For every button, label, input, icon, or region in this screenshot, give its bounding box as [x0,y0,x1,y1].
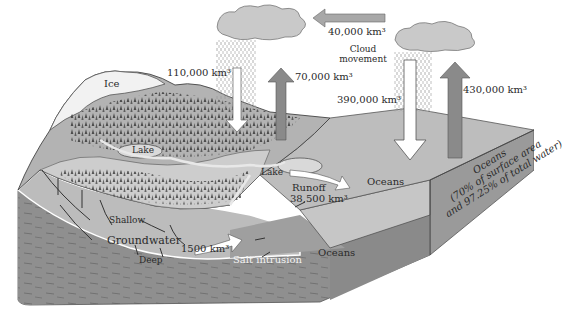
label-runoff-value: 38,500 km³ [290,194,348,204]
label-groundwater-discharge: 1500 km³ [181,244,229,254]
label-groundwater: Groundwater [107,235,181,246]
label-ocean-evaporation: 430,000 km³ [463,85,527,95]
label-lake-1: Lake [132,146,154,155]
label-land-precipitation: 110,000 km³ [167,68,231,78]
label-land-evaporation: 70,000 km³ [295,72,353,82]
cloud-movement-arrow [313,9,385,27]
label-ice: Ice [104,79,119,89]
label-shallow: Shallow [109,216,145,225]
label-runoff: Runoff [292,183,326,193]
label-salt-intrusion: Salt intrusion [233,255,302,265]
label-oceans-subsurface: Oceans [318,248,355,258]
label-oceans-surface: Oceans [367,177,404,187]
label-cloud-movement-1: Cloud [336,45,390,54]
label-ocean-precipitation: 390,000 km³ [337,95,401,105]
cloud-right [395,21,475,51]
label-deep: Deep [139,256,163,265]
label-cloud-movement-2: movement [330,55,396,64]
label-cloud-transport: 40,000 km³ [328,27,386,37]
label-lake-2: Lake [261,168,283,177]
cloud-left [217,5,305,40]
